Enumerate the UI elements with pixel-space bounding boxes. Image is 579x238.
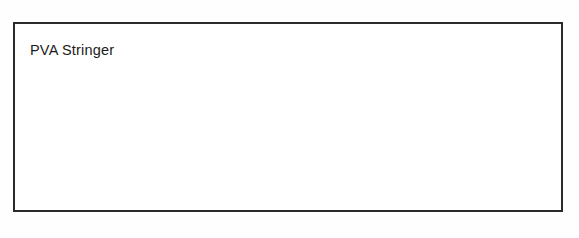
figure-root: PVA Stringer [0, 0, 579, 238]
figure-caption: PVA Stringer [30, 41, 114, 59]
